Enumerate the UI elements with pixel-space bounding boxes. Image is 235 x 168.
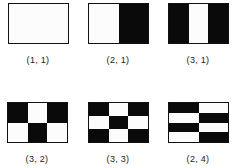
cell-r1-c1 [28, 123, 48, 143]
cell-r1-c2 [47, 123, 67, 143]
cell-r2-c2 [128, 129, 148, 142]
cell-r0-c1 [199, 103, 229, 113]
label-3-2: (3, 2) [2, 154, 72, 164]
cell-r1-c0 [169, 113, 199, 123]
cell-r1-c1 [199, 113, 229, 123]
pattern-3-1 [168, 3, 229, 44]
cell-r0-c0 [169, 4, 189, 43]
cell-r0-c1 [119, 4, 149, 43]
cell-r0-c0 [89, 4, 119, 43]
cell-r0-c0 [169, 103, 199, 113]
label-2-4: (2, 4) [163, 154, 233, 164]
pattern-3-3 [88, 102, 149, 143]
pattern-2-4 [168, 102, 229, 143]
cell-r3-c0 [169, 132, 199, 142]
cell-r1-c0 [89, 116, 109, 129]
label-3-3: (3, 3) [83, 154, 153, 164]
label-2-1: (2, 1) [83, 55, 153, 65]
cell-r0-c1 [109, 103, 129, 116]
cell-r0-c0 [9, 4, 68, 43]
cell-r0-c2 [208, 4, 228, 43]
cell-r2-c0 [89, 129, 109, 142]
cell-r0-c1 [28, 103, 48, 123]
label-1-1: (1, 1) [3, 55, 73, 65]
pattern-1-1 [8, 3, 69, 44]
label-3-1: (3, 1) [163, 55, 233, 65]
cell-r1-c2 [128, 116, 148, 129]
cell-r2-c0 [169, 123, 199, 133]
cell-r3-c1 [199, 132, 229, 142]
cell-r0-c1 [189, 4, 209, 43]
cell-r0-c2 [47, 103, 67, 123]
cell-r0-c2 [128, 103, 148, 116]
pattern-3-2 [7, 102, 68, 143]
cell-r2-c1 [109, 129, 129, 142]
cell-r1-c0 [8, 123, 28, 143]
cell-r0-c0 [89, 103, 109, 116]
cell-r0-c0 [8, 103, 28, 123]
pattern-2-1 [88, 3, 149, 44]
cell-r2-c1 [199, 123, 229, 133]
cell-r1-c1 [109, 116, 129, 129]
